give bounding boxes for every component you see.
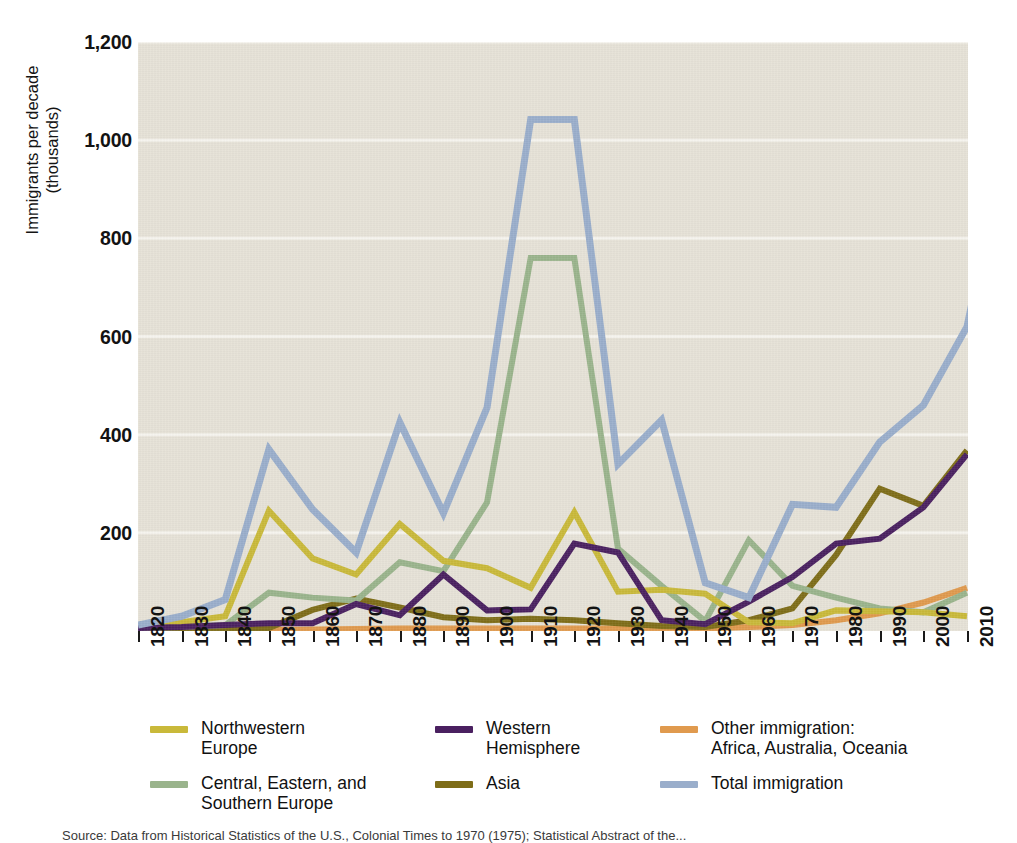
x-tick-label: 1820	[147, 606, 169, 647]
legend-item-northwestern-europe[interactable]: Northwestern Europe	[150, 718, 305, 759]
y-tick-label: 200	[40, 521, 132, 544]
x-tick-mark	[138, 631, 140, 642]
x-tick-mark	[182, 631, 184, 642]
plot-area	[138, 42, 968, 631]
x-tick-mark	[792, 631, 794, 642]
x-tick-mark	[923, 631, 925, 642]
x-tick-mark	[313, 631, 315, 642]
x-tick-mark	[618, 631, 620, 642]
x-tick-label: 2000	[932, 606, 954, 647]
x-tick-label: 2010	[976, 606, 998, 647]
x-tick-mark	[705, 631, 707, 642]
x-tick-label: 1900	[496, 606, 518, 647]
x-tick-label: 1910	[540, 606, 562, 647]
legend-label: Total immigration	[711, 773, 843, 793]
legend-label: Western Hemisphere	[486, 718, 580, 759]
legend-label: Central, Eastern, and Southern Europe	[201, 773, 366, 814]
legend-swatch-icon	[435, 726, 473, 733]
x-tick-label: 1870	[365, 606, 387, 647]
x-tick-label: 1830	[191, 606, 213, 647]
x-tick-mark	[836, 631, 838, 642]
y-tick-label: 1,000	[40, 129, 132, 152]
legend-item-asia[interactable]: Asia	[435, 773, 520, 793]
series-lines	[138, 42, 968, 631]
x-tick-label: 1980	[845, 606, 867, 647]
x-tick-mark	[749, 631, 751, 642]
x-tick-mark	[225, 631, 227, 642]
legend-label: Other immigration: Africa, Australia, Oc…	[711, 718, 907, 759]
x-tick-mark	[356, 631, 358, 642]
x-tick-label: 1840	[234, 606, 256, 647]
x-tick-label: 1930	[627, 606, 649, 647]
y-tick-label: 1,200	[40, 31, 132, 54]
x-tick-mark	[531, 631, 533, 642]
x-tick-mark	[967, 631, 969, 642]
legend-item-western-hemisphere[interactable]: Western Hemisphere	[435, 718, 580, 759]
x-tick-mark	[400, 631, 402, 642]
x-tick-label: 1950	[714, 606, 736, 647]
legend-swatch-icon	[660, 726, 698, 733]
legend-swatch-icon	[660, 781, 698, 788]
x-tick-label: 1990	[889, 606, 911, 647]
x-tick-mark	[880, 631, 882, 642]
legend-item-other-immigration[interactable]: Other immigration: Africa, Australia, Oc…	[660, 718, 907, 759]
x-tick-mark	[662, 631, 664, 642]
legend-swatch-icon	[150, 726, 188, 733]
y-axis-tick-labels: 1,2001,000800600400200	[32, 0, 132, 839]
y-tick-label: 400	[40, 423, 132, 446]
x-tick-label: 1940	[671, 606, 693, 647]
x-tick-mark	[487, 631, 489, 642]
legend-label: Asia	[486, 773, 520, 793]
legend-swatch-icon	[435, 781, 473, 788]
x-tick-label: 1860	[322, 606, 344, 647]
y-tick-label: 800	[40, 227, 132, 250]
x-tick-mark	[443, 631, 445, 642]
chart-legend: Northwestern EuropeCentral, Eastern, and…	[150, 718, 1010, 816]
x-tick-mark	[269, 631, 271, 642]
x-tick-mark	[574, 631, 576, 642]
x-tick-label: 1890	[452, 606, 474, 647]
x-tick-label: 1960	[758, 606, 780, 647]
legend-item-central-eastern-southern-europe[interactable]: Central, Eastern, and Southern Europe	[150, 773, 366, 814]
y-tick-label: 600	[40, 325, 132, 348]
x-tick-label: 1850	[278, 606, 300, 647]
legend-swatch-icon	[150, 781, 188, 788]
source-note: Source: Data from Historical Statistics …	[62, 828, 1012, 843]
x-tick-label: 1970	[801, 606, 823, 647]
x-tick-label: 1920	[583, 606, 605, 647]
legend-item-total-immigration[interactable]: Total immigration	[660, 773, 843, 793]
legend-label: Northwestern Europe	[201, 718, 305, 759]
x-tick-label: 1880	[409, 606, 431, 647]
